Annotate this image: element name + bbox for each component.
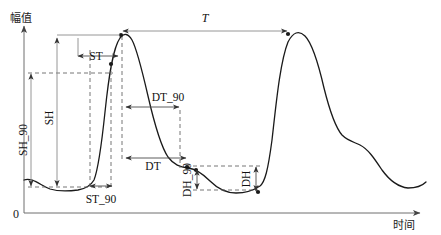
label-dt: DT bbox=[145, 160, 160, 172]
label-st: ST bbox=[89, 50, 102, 62]
waveform-parameter-diagram: SH_90 SH ST_90 ST T DT_90 bbox=[0, 0, 441, 235]
dimension-dh: DH bbox=[240, 167, 256, 191]
dimension-dh90: DH_90 bbox=[181, 163, 197, 197]
label-T: T bbox=[202, 11, 210, 25]
curve-marker-dots bbox=[109, 32, 290, 194]
dimension-st90: ST_90 bbox=[86, 186, 117, 205]
label-sh90: SH_90 bbox=[17, 124, 29, 156]
label-dh90: DH_90 bbox=[181, 163, 193, 197]
dot-dh90-top bbox=[194, 168, 198, 172]
label-dt90: DT_90 bbox=[152, 91, 185, 103]
dimension-T: T bbox=[123, 11, 287, 31]
origin-label: 0 bbox=[13, 207, 19, 221]
label-dh: DH bbox=[240, 171, 252, 188]
waveform-curve bbox=[24, 33, 426, 193]
dimension-dt90: DT_90 bbox=[126, 91, 185, 107]
axes-group bbox=[24, 26, 420, 213]
x-axis-label: 时间 bbox=[393, 219, 415, 232]
label-sh: SH bbox=[43, 111, 55, 126]
y-axis-label: 幅值 bbox=[10, 12, 32, 25]
dot-peak-2 bbox=[286, 32, 290, 36]
dimension-sh: SH bbox=[43, 38, 57, 186]
dot-trough-2 bbox=[256, 190, 260, 194]
dot-rise-90 bbox=[109, 62, 113, 66]
label-st90: ST_90 bbox=[86, 193, 117, 205]
